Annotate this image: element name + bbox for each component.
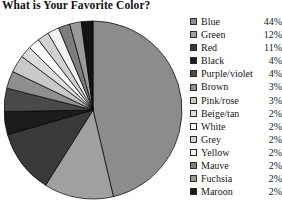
legend-item-value: 2% [269, 107, 282, 120]
legend-swatch-icon [190, 18, 197, 25]
legend-item-value: 4% [269, 67, 282, 80]
legend-item: Green12% [190, 28, 282, 41]
legend-item: Red11% [190, 41, 282, 54]
pie-chart-figure: What is Your Favorite Color? Blue44%Gree… [0, 0, 282, 205]
legend-item-label: Maroon [201, 185, 269, 198]
legend-item-label: White [201, 120, 269, 133]
legend-item-value: 11% [264, 41, 282, 54]
legend-item-label: Blue [201, 15, 264, 28]
legend-item-label: Yellow [201, 146, 269, 159]
chart-title: What is Your Favorite Color? [2, 0, 150, 11]
legend-item-value: 44% [264, 15, 282, 28]
legend-item-value: 2% [269, 133, 282, 146]
legend-item: Grey2% [190, 133, 282, 146]
legend-swatch-icon [190, 31, 197, 38]
legend-item-value: 12% [264, 28, 282, 41]
legend-item: Purple/violet4% [190, 67, 282, 80]
legend-item: Mauve2% [190, 159, 282, 172]
legend-item-value: 3% [269, 80, 282, 93]
legend-swatch-icon [190, 110, 197, 117]
legend-item: Maroon2% [190, 185, 282, 198]
legend-item-label: Grey [201, 133, 269, 146]
legend-item-label: Beige/tan [201, 107, 269, 120]
legend-item-value: 2% [269, 172, 282, 185]
legend-item-value: 2% [269, 159, 282, 172]
legend-item-label: Mauve [201, 159, 269, 172]
chart-legend: Blue44%Green12%Red11%Black4%Purple/viole… [190, 15, 282, 198]
legend-item-value: 2% [269, 120, 282, 133]
legend-item-label: Brown [201, 80, 269, 93]
legend-item-label: Green [201, 28, 264, 41]
legend-item-value: 4% [269, 54, 282, 67]
legend-swatch-icon [190, 44, 197, 51]
legend-item-value: 3% [269, 94, 282, 107]
legend-item-value: 2% [269, 146, 282, 159]
legend-item: Pink/rose3% [190, 94, 282, 107]
legend-item: Black4% [190, 54, 282, 67]
legend-swatch-icon [190, 162, 197, 169]
legend-item: Beige/tan2% [190, 107, 282, 120]
legend-swatch-icon [190, 97, 197, 104]
legend-item-label: Red [201, 41, 264, 54]
legend-item-label: Black [201, 54, 269, 67]
legend-item: Brown3% [190, 80, 282, 93]
legend-swatch-icon [190, 149, 197, 156]
legend-item: Blue44% [190, 15, 282, 28]
legend-item: White2% [190, 120, 282, 133]
legend-swatch-icon [190, 175, 197, 182]
legend-swatch-icon [190, 57, 197, 64]
pie-slice-group [4, 21, 182, 199]
legend-item: Fuchsia2% [190, 172, 282, 185]
legend-item-label: Purple/violet [201, 67, 269, 80]
pie-svg [4, 17, 184, 205]
legend-item-label: Fuchsia [201, 172, 269, 185]
legend-swatch-icon [190, 70, 197, 77]
legend-swatch-icon [190, 123, 197, 130]
legend-item-label: Pink/rose [201, 94, 269, 107]
legend-swatch-icon [190, 188, 197, 195]
legend-swatch-icon [190, 84, 197, 91]
legend-item: Yellow2% [190, 146, 282, 159]
pie-plot-area [4, 17, 184, 205]
legend-swatch-icon [190, 136, 197, 143]
legend-item-value: 2% [269, 185, 282, 198]
